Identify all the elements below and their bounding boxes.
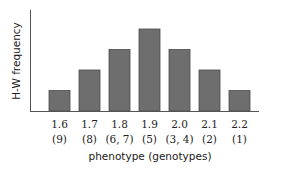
x-tick-genotype: (5) (142, 133, 157, 145)
x-tick-phenotype: 1.6 (51, 118, 68, 130)
bars-group (49, 29, 250, 111)
x-axis-label: phenotype (genotypes) (89, 150, 212, 162)
bar-2.0 (169, 50, 190, 112)
x-tick-phenotype: 1.9 (141, 118, 158, 130)
bar-1.6 (49, 91, 70, 112)
x-tick-genotype: (3, 4) (165, 133, 193, 145)
bar-2.1 (199, 70, 220, 111)
x-tick-phenotype: 1.8 (111, 118, 128, 130)
y-axis-label: H-W frequency (10, 22, 22, 100)
x-tick-phenotype: 1.7 (81, 118, 98, 130)
x-tick-genotype: (9) (52, 133, 67, 145)
x-tick-phenotype: 2.2 (231, 118, 248, 130)
bar-1.8 (109, 50, 130, 112)
x-tick-genotype: (2) (202, 133, 217, 145)
x-tick-labels: 1.6(9)1.7(8)1.8(6, 7)1.9(5)2.0(3, 4)2.1(… (51, 118, 248, 145)
x-tick-genotype: (8) (82, 133, 97, 145)
x-tick-phenotype: 2.1 (201, 118, 218, 130)
bar-1.9 (139, 29, 160, 111)
bar-1.7 (79, 70, 100, 111)
x-tick-phenotype: 2.0 (171, 118, 188, 130)
bar-2.2 (229, 91, 250, 112)
bar-chart: H-W frequency 1.6(9)1.7(8)1.8(6, 7)1.9(5… (0, 0, 282, 173)
x-tick-genotype: (6, 7) (105, 133, 133, 145)
x-tick-genotype: (1) (232, 133, 247, 145)
